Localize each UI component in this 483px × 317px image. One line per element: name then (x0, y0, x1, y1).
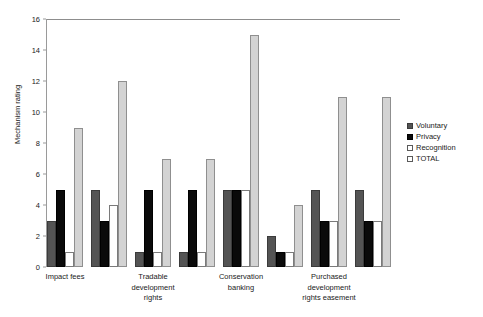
bar-group (91, 81, 127, 267)
bar-privacy (188, 190, 197, 268)
bar-recognition (109, 205, 118, 267)
bar-voluntary (135, 252, 144, 268)
y-tick-label: 4 (0, 201, 40, 210)
y-tick-mark (43, 50, 46, 51)
y-tick-label: 0 (0, 263, 40, 272)
bar-voluntary (223, 190, 232, 268)
x-axis-label: Impact fees (17, 272, 113, 283)
bar-total (294, 205, 303, 267)
y-tick-label: 10 (0, 108, 40, 117)
legend-item-recognition: Recognition (407, 142, 456, 153)
y-tick-mark (43, 143, 46, 144)
bar-group (223, 35, 259, 268)
bar-total (338, 97, 347, 268)
bar-recognition (285, 252, 294, 268)
bar-privacy (364, 221, 373, 268)
y-tick-mark (43, 267, 46, 268)
bar-recognition (373, 221, 382, 268)
bar-total (382, 97, 391, 268)
plot-area (46, 19, 398, 267)
bar-group (47, 128, 83, 268)
bar-recognition (153, 252, 162, 268)
bar-privacy (320, 221, 329, 268)
legend-label: Recognition (416, 143, 456, 152)
bar-total (162, 159, 171, 268)
bar-group (311, 97, 347, 268)
bar-privacy (144, 190, 153, 268)
y-tick-mark (43, 81, 46, 82)
legend-label: TOTAL (416, 154, 439, 163)
bar-voluntary (47, 221, 56, 268)
bar-total (206, 159, 215, 268)
chart-legend: VoluntaryPrivacyRecognitionTOTAL (407, 120, 456, 164)
y-tick-label: 14 (0, 46, 40, 55)
legend-swatch-icon (407, 145, 413, 151)
bar-voluntary (267, 236, 276, 267)
bar-voluntary (91, 190, 100, 268)
bar-group (135, 159, 171, 268)
legend-label: Privacy (416, 132, 441, 141)
bar-privacy (276, 252, 285, 268)
legend-item-total: TOTAL (407, 153, 456, 164)
legend-label: Voluntary (416, 121, 447, 130)
legend-item-privacy: Privacy (407, 131, 456, 142)
bar-total (118, 81, 127, 267)
bar-recognition (197, 252, 206, 268)
legend-item-voluntary: Voluntary (407, 120, 456, 131)
bar-privacy (56, 190, 65, 268)
y-tick-label: 8 (0, 139, 40, 148)
bar-privacy (232, 190, 241, 268)
x-axis-label: Tradable development rights (105, 272, 201, 304)
y-tick-mark (43, 205, 46, 206)
y-tick-label: 6 (0, 170, 40, 179)
x-axis-label: Conservation banking (193, 272, 289, 293)
bar-total (250, 35, 259, 268)
bar-voluntary (179, 252, 188, 268)
y-tick-mark (43, 236, 46, 237)
bar-group (179, 159, 215, 268)
bar-privacy (100, 221, 109, 268)
bar-recognition (241, 190, 250, 268)
bar-voluntary (311, 190, 320, 268)
x-axis-label: Purchased development rights easement (281, 272, 377, 304)
bar-recognition (65, 252, 74, 268)
y-tick-label: 12 (0, 77, 40, 86)
bar-recognition (329, 221, 338, 268)
y-tick-label: 2 (0, 232, 40, 241)
y-tick-mark (43, 19, 46, 20)
bar-voluntary (355, 190, 364, 268)
bar-total (74, 128, 83, 268)
y-tick-mark (43, 174, 46, 175)
legend-swatch-icon (407, 123, 413, 129)
y-tick-mark (43, 112, 46, 113)
legend-swatch-icon (407, 134, 413, 140)
y-tick-label: 16 (0, 15, 40, 24)
bar-group (355, 97, 391, 268)
bar-chart-figure: Mechanism rating 0246810121416 Impact fe… (0, 0, 483, 317)
legend-swatch-icon (407, 156, 413, 162)
bar-group (267, 205, 303, 267)
